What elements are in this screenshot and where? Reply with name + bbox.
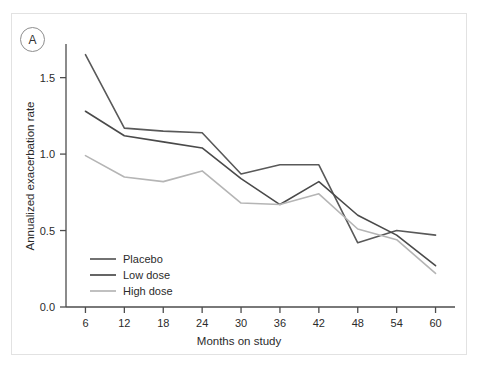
y-tick-label: 1.5 <box>40 72 55 84</box>
legend-label-placebo: Placebo <box>123 253 163 265</box>
x-tick-label: 12 <box>118 317 130 329</box>
x-tick-label: 24 <box>196 317 208 329</box>
x-tick-label: 6 <box>82 317 88 329</box>
y-tick-label: 1.0 <box>40 148 55 160</box>
y-tick-label: 0.0 <box>40 301 55 313</box>
y-axis-title: Annualized exacerbation rate <box>24 102 36 251</box>
x-axis-ticks: 6121824303642485460 <box>82 307 441 329</box>
x-tick-label: 36 <box>274 317 286 329</box>
x-tick-label: 18 <box>157 317 169 329</box>
x-tick-label: 42 <box>313 317 325 329</box>
figure-panel: A 0.00.51.01.5 6121824303642485460 Month… <box>0 0 478 372</box>
x-tick-label: 30 <box>235 317 247 329</box>
y-tick-label: 0.5 <box>40 225 55 237</box>
x-tick-label: 54 <box>391 317 403 329</box>
x-tick-label: 48 <box>352 317 364 329</box>
series-line-low-dose <box>85 111 435 265</box>
series-line-placebo <box>85 55 435 243</box>
legend-label-low-dose: Low dose <box>123 269 170 281</box>
y-axis-ticks: 0.00.51.01.5 <box>40 72 66 313</box>
x-tick-label: 60 <box>429 317 441 329</box>
legend-label-high-dose: High dose <box>123 285 173 297</box>
line-chart: 0.00.51.01.5 6121824303642485460 Months … <box>0 0 478 372</box>
chart-legend: PlaceboLow doseHigh dose <box>90 253 173 297</box>
data-series-group <box>85 55 435 274</box>
x-axis-title: Months on study <box>197 335 282 347</box>
